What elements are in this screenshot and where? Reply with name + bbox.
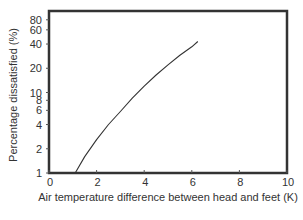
x-tick-label: 10 <box>282 176 294 188</box>
y-tick-label: 80 <box>30 14 42 26</box>
chart-container: 0246810 124681020406080 Air temperature … <box>0 0 303 220</box>
y-axis-ticks: 124681020406080 <box>30 14 49 179</box>
y-axis-label: Percentage dissatisfied (%) <box>7 28 19 162</box>
x-tick-label: 4 <box>142 176 148 188</box>
x-tick-label: 2 <box>95 176 101 188</box>
data-line <box>75 42 198 174</box>
y-tick-label: 4 <box>36 119 42 131</box>
x-tick-label: 8 <box>237 176 243 188</box>
x-tick-label: 6 <box>190 176 196 188</box>
x-tick-label: 0 <box>47 176 53 188</box>
data-series <box>75 42 198 174</box>
y-tick-label: 10 <box>30 87 42 99</box>
y-tick-label: 20 <box>30 62 42 74</box>
y-tick-label: 1 <box>36 167 42 179</box>
y-tick-label: 2 <box>36 143 42 155</box>
y-tick-label: 40 <box>30 38 42 50</box>
x-axis-label: Air temperature difference between head … <box>38 191 298 203</box>
plot-border <box>49 11 287 173</box>
plot-frame <box>49 11 287 173</box>
line-chart: 0246810 124681020406080 Air temperature … <box>0 0 303 220</box>
